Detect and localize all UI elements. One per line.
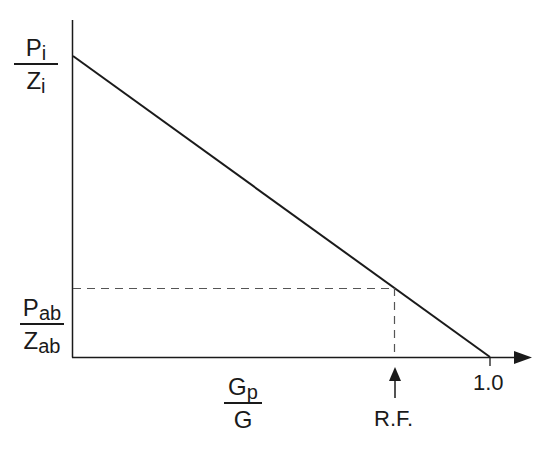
pab-zab-label: Pab Zab: [20, 296, 64, 353]
x-axis-label: Gp G: [224, 375, 262, 432]
zab-den-sub: ab: [38, 335, 60, 357]
zab-den: Z: [24, 327, 39, 354]
y-axis-label: Pi Zi: [14, 36, 58, 93]
y-label-num: P: [26, 34, 42, 61]
x-label-den: G: [234, 408, 253, 432]
x-label-num-sub: p: [247, 381, 258, 403]
y-label-den: Z: [26, 67, 41, 94]
pab-num-sub: ab: [39, 302, 61, 324]
rf-label: R.F.: [374, 408, 413, 430]
rf-arrow-icon: [389, 367, 401, 381]
x-axis-arrow-icon: [514, 351, 532, 364]
y-label-num-sub: i: [42, 42, 46, 64]
y-label-den-sub: i: [41, 75, 45, 97]
x-tick-label-1: 1.0: [473, 372, 504, 394]
fraction-bar: [14, 63, 58, 65]
x-label-num: G: [228, 373, 247, 400]
pab-num: P: [23, 294, 39, 321]
decline-line: [73, 56, 490, 357]
